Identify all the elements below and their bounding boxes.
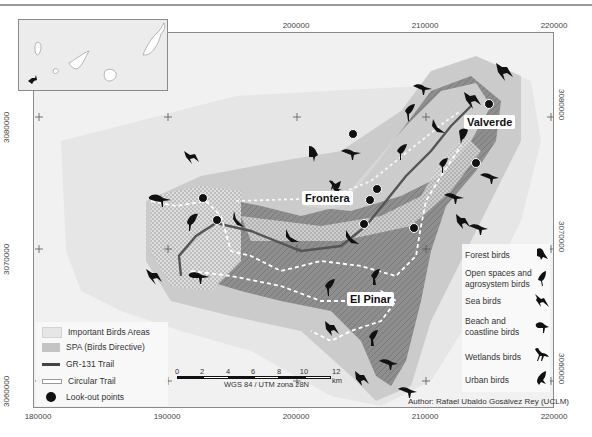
town-label-el-pinar: El Pinar [347, 292, 394, 306]
open-space-bird-icon [534, 270, 550, 286]
coastline-bird-icon [534, 318, 550, 334]
bird-legend-forest: Forest birds [465, 250, 535, 261]
y-tick-right-3060000: 3060000 [557, 353, 566, 384]
legend-item-circular: Circular Trail [42, 375, 116, 387]
scale-label: 0 [175, 367, 179, 376]
scale-label: 6 [251, 367, 255, 376]
forest-bird-icon [534, 246, 550, 262]
x-tick-200000: 200000 [283, 412, 310, 421]
legend-item-lookout: Look-out points [42, 391, 124, 403]
spa-swatch-icon [42, 343, 60, 352]
bird-legend-wetlands: Wetlands birds [465, 352, 535, 363]
legend-item-gr131: GR-131 Trail [42, 358, 114, 370]
bird-legend-sea: Sea birds [465, 296, 535, 307]
scale-segment [254, 376, 279, 379]
scale-segment [203, 376, 229, 379]
y-tick-right-3080000: 3080000 [557, 89, 566, 120]
legend-item-iba: Important Birds Areas [42, 326, 150, 338]
circular-trail-line-icon [42, 379, 62, 384]
y-tick-left-3080000: 3080000 [2, 112, 11, 143]
town-label-valverde: Valverde [464, 115, 515, 129]
bird-legend: Forest birds Open spaces and agrosystem … [462, 244, 550, 392]
bird-legend-urban: Urban birds [465, 375, 535, 386]
scale-segment [229, 376, 254, 379]
scale-label: 2 [200, 367, 204, 376]
scale-label: 4 [226, 367, 230, 376]
scale-segment [279, 376, 305, 379]
sea-bird-icon [534, 292, 550, 308]
x-tick-top-200000: 200000 [283, 21, 310, 30]
scale-segment [177, 376, 203, 379]
map-legend: Important Birds Areas SPA (Birds Directi… [36, 322, 168, 406]
author-credit: Author: Rafael Ubaldo Gosálvez Rey (UCLM… [408, 397, 569, 406]
town-label-frontera: Frontera [302, 191, 353, 205]
bird-legend-coastline: Beach and coastline birds [465, 316, 537, 338]
scale-label: 12 km [332, 367, 342, 385]
x-tick-210000: 210000 [412, 412, 439, 421]
lookout-point-icon [46, 392, 56, 402]
el-hierro-highlight [28, 75, 37, 84]
canary-islands-inset-map [18, 19, 168, 91]
scale-label: 8 [277, 367, 281, 376]
inset-islands [35, 23, 165, 81]
iba-swatch-icon [42, 327, 62, 338]
top-rule [0, 4, 592, 6]
y-tick-right-3070000: 3070000 [557, 221, 566, 252]
x-tick-190000: 190000 [154, 412, 181, 421]
gr131-line-icon [42, 363, 60, 366]
projection-label: WGS 84 / UTM zona 28N [224, 380, 309, 389]
legend-label: Look-out points [66, 392, 124, 402]
urban-bird-icon [534, 370, 550, 386]
wetland-bird-icon [534, 346, 550, 362]
legend-label: GR-131 Trail [66, 359, 114, 369]
scale-label: 10 [300, 367, 308, 376]
scale-segment [305, 376, 331, 379]
legend-label: Circular Trail [68, 376, 116, 386]
legend-label: SPA (Birds Directive) [66, 342, 145, 352]
x-tick-top-220000: 220000 [541, 21, 568, 30]
x-tick-220000: 220000 [541, 412, 568, 421]
x-tick-top-210000: 210000 [412, 21, 439, 30]
y-tick-left-3060000: 3060000 [2, 376, 11, 407]
x-tick-180000: 180000 [25, 412, 52, 421]
legend-item-spa: SPA (Birds Directive) [42, 341, 145, 353]
bird-legend-open-spaces: Open spaces and agrosystem birds [465, 268, 537, 290]
legend-label: Important Birds Areas [68, 327, 150, 337]
y-tick-left-3070000: 3070000 [2, 244, 11, 275]
